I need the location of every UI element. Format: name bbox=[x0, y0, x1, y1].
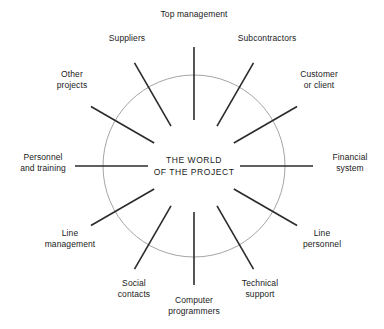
spoke-label-financial-system: Financial system bbox=[333, 152, 368, 173]
spoke-label-customer-or-client: Customer or client bbox=[300, 69, 338, 90]
spoke-line-line-management bbox=[91, 189, 154, 226]
spoke-line-subcontractors bbox=[217, 63, 254, 126]
spoke-line-suppliers bbox=[135, 63, 172, 126]
spoke-label-other-projects: Other projects bbox=[57, 69, 88, 90]
spoke-label-line-management: Line management bbox=[45, 228, 96, 249]
spoke-line-other-projects bbox=[91, 107, 154, 144]
spoke-line-social-contacts bbox=[135, 206, 172, 269]
spoke-label-technical-support: Technical support bbox=[242, 278, 278, 299]
spoke-label-suppliers: Suppliers bbox=[109, 33, 145, 44]
spoke-line-technical-support bbox=[217, 206, 254, 269]
spoke-label-personnel-and-training: Personnel and training bbox=[20, 152, 66, 173]
spoke-line-line-personnel bbox=[234, 189, 297, 226]
spoke-label-social-contacts: Social contacts bbox=[118, 278, 150, 299]
spoke-label-computer-programmers: Computer programmers bbox=[168, 295, 220, 316]
center-title: THE WORLD OF THE PROJECT bbox=[154, 155, 235, 178]
spoke-label-top-management: Top management bbox=[160, 9, 227, 20]
project-world-diagram: THE WORLD OF THE PROJECT Top managementS… bbox=[0, 0, 384, 329]
spoke-label-subcontractors: Subcontractors bbox=[238, 33, 297, 44]
spoke-line-customer-or-client bbox=[234, 107, 297, 144]
spoke-label-line-personnel: Line personnel bbox=[303, 228, 341, 249]
